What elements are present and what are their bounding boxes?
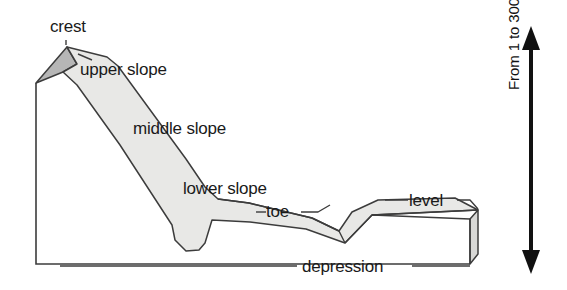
vertical-scale-arrow (522, 26, 540, 274)
vertical-scale-caption: From 1 to 300 m (506, 0, 521, 90)
scale-arrow-head-down (522, 250, 540, 274)
block-end-face (470, 210, 478, 264)
label-upper-slope: upper slope (80, 61, 167, 78)
diagram-canvas: crest upper slope middle slope lower slo… (0, 0, 567, 290)
label-lower-slope: lower slope (183, 180, 267, 197)
label-level: level (409, 192, 443, 209)
label-depression: depression (302, 258, 383, 275)
leader-line-toe-right (301, 205, 330, 212)
label-middle-slope: middle slope (133, 120, 226, 137)
label-crest: crest (50, 18, 86, 35)
scale-arrow-head-up (522, 26, 540, 50)
landform-illustration (0, 0, 567, 290)
label-toe: toe (266, 203, 289, 220)
block-end-front-edge (372, 215, 470, 264)
